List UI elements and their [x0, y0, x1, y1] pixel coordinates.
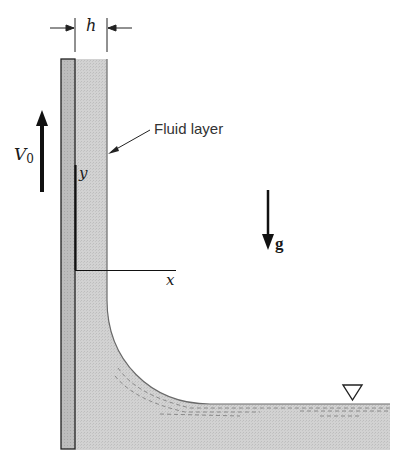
y-axis-label: y	[79, 166, 87, 181]
free-surface-line	[107, 59, 390, 404]
fluid-layer-diagram: h V0 Fluid layer g y x	[0, 0, 409, 466]
wall-velocity-symbol: V	[14, 144, 26, 164]
free-surface-triangle-icon	[343, 385, 362, 400]
wall-velocity-arrow	[36, 110, 48, 192]
gravity-label: g	[275, 235, 284, 252]
wall-velocity-subscript: 0	[26, 152, 34, 166]
x-axis-label: x	[166, 273, 174, 288]
diagram-graphics	[0, 0, 409, 466]
fluid-layer-label: Fluid layer	[154, 121, 223, 136]
fluid-layer-leader	[108, 130, 150, 154]
wall-velocity-label: V0	[14, 146, 34, 163]
gravity-arrow	[262, 190, 274, 250]
fluid-region	[75, 59, 390, 450]
moving-wall	[61, 59, 75, 449]
thickness-label: h	[86, 18, 96, 34]
